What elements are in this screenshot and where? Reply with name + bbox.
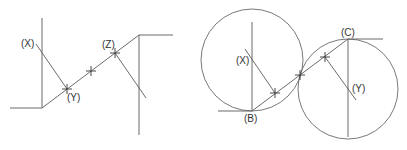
label-c: (C) [341,27,355,38]
cross-marker-mid [86,66,96,76]
perpendicular-x-y [36,44,67,89]
right-figure: (X) (B) (C) (Y) [201,9,398,139]
label-b: (B) [244,113,257,124]
left-figure: (X) (Y) (Z) [10,18,173,135]
label-z-left: (Z) [102,39,115,50]
perpendicular-z [115,53,146,98]
cross-marker-tangent-point [295,70,305,80]
perpendicular-bisector-x [245,49,275,93]
connecting-diagonal [42,35,139,108]
label-y-left: (Y) [67,92,80,103]
label-x-left: (X) [21,38,34,49]
diagram-canvas: (X) (Y) (Z) (X) (B) (C) (Y) [0,0,407,150]
label-y-right: (Y) [352,83,365,94]
label-x-right: (X) [236,55,249,66]
